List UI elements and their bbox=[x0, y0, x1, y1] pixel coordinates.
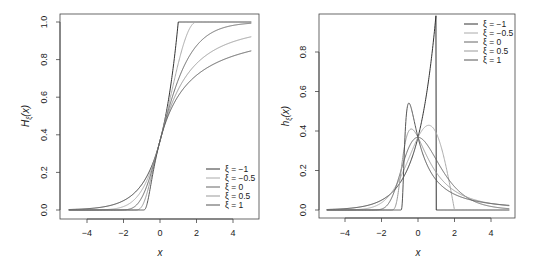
x-tick-label: 4 bbox=[230, 228, 235, 238]
curve-xi-neg1 bbox=[69, 22, 252, 210]
y-tick-label: 0.2 bbox=[298, 164, 308, 177]
x-tick-label: −4 bbox=[340, 228, 350, 238]
left-legend: ξ = −1ξ = −0.5ξ = 0ξ = 0.5ξ = 1 bbox=[206, 164, 256, 210]
right-x-axis: −4 −2 0 2 4 x bbox=[340, 218, 494, 258]
y-tick-label: 0.4 bbox=[298, 125, 308, 138]
curve-xi-0_5 bbox=[327, 129, 510, 210]
curve-xi-neg0_5 bbox=[69, 22, 252, 210]
right-y-axis: 0.0 0.2 0.4 0.6 0.8 hξ(x) bbox=[280, 46, 319, 217]
left-chart-panel: −4 −2 0 2 4 x 0.0 0.2 0.4 0.6 0.8 1.0 Hξ… bbox=[20, 14, 259, 258]
curve-xi-0 bbox=[69, 23, 252, 210]
curve-xi-neg1 bbox=[327, 16, 510, 210]
left-x-axis: −4 −2 0 2 4 x bbox=[82, 219, 236, 258]
y-tick-label: 0.6 bbox=[298, 85, 308, 98]
right-legend: ξ = −1ξ = −0.5ξ = 0ξ = 0.5ξ = 1 bbox=[464, 19, 514, 65]
y-tick-label: 0.0 bbox=[39, 204, 49, 217]
x-axis-label: x bbox=[415, 247, 422, 258]
x-tick-label: 4 bbox=[488, 228, 493, 238]
x-tick-label: 0 bbox=[157, 228, 162, 238]
x-tick-label: −4 bbox=[82, 228, 92, 238]
legend-label: ξ = 1 bbox=[225, 200, 243, 210]
x-axis-label: x bbox=[157, 247, 164, 258]
curve-xi-1 bbox=[327, 103, 510, 210]
y-tick-label: 0.6 bbox=[39, 91, 49, 104]
legend-label: ξ = 1 bbox=[483, 55, 501, 65]
left-y-axis: 0.0 0.2 0.4 0.6 0.8 1.0 Hξ(x) bbox=[20, 16, 60, 217]
right-curves bbox=[327, 16, 510, 210]
left-curves bbox=[69, 22, 252, 210]
y-axis-label: Hξ(x) bbox=[20, 105, 33, 127]
curve-xi-0_5 bbox=[69, 37, 252, 210]
x-tick-label: 0 bbox=[415, 228, 420, 238]
x-tick-label: −2 bbox=[118, 228, 128, 238]
y-tick-label: 1.0 bbox=[39, 16, 49, 29]
y-tick-label: 0.4 bbox=[39, 129, 49, 142]
x-tick-label: 2 bbox=[194, 228, 199, 238]
x-tick-label: 2 bbox=[452, 228, 457, 238]
y-tick-label: 0.0 bbox=[298, 204, 308, 217]
right-chart-panel: −4 −2 0 2 4 x 0.0 0.2 0.4 0.6 0.8 hξ(x) … bbox=[280, 14, 515, 258]
x-tick-label: −2 bbox=[376, 228, 386, 238]
y-tick-label: 0.8 bbox=[39, 53, 49, 66]
y-tick-label: 0.2 bbox=[39, 166, 49, 179]
curve-xi-0 bbox=[327, 137, 510, 210]
y-tick-label: 0.8 bbox=[298, 46, 308, 59]
curve-xi-1 bbox=[69, 51, 252, 210]
y-axis-label: hξ(x) bbox=[280, 106, 293, 126]
